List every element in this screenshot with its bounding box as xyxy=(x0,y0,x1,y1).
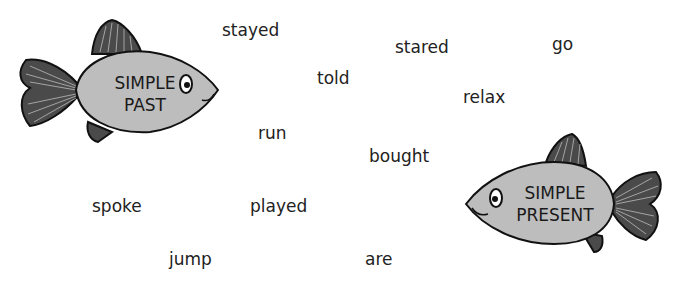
word-card[interactable]: jump xyxy=(169,249,212,269)
word-card[interactable]: are xyxy=(365,249,393,269)
simple-present-label-line2: PRESENT xyxy=(505,204,605,226)
word-card[interactable]: relax xyxy=(463,87,505,107)
simple-past-label-line2: PAST xyxy=(90,94,200,116)
word-card[interactable]: stayed xyxy=(222,20,279,40)
sorting-activity: SIMPLE PAST SIMPLE PRESENT stayed stared xyxy=(0,0,681,288)
word-card[interactable]: stared xyxy=(395,37,449,57)
word-card[interactable]: run xyxy=(258,123,287,143)
word-card[interactable]: spoke xyxy=(92,196,142,216)
simple-present-label-line1: SIMPLE xyxy=(505,182,605,204)
simple-present-label: SIMPLE PRESENT xyxy=(505,182,605,226)
word-card[interactable]: go xyxy=(552,34,573,54)
word-card[interactable]: played xyxy=(250,196,307,216)
word-card[interactable]: bought xyxy=(369,146,429,166)
simple-past-label: SIMPLE PAST xyxy=(90,72,200,116)
simple-past-label-line1: SIMPLE xyxy=(90,72,200,94)
word-card[interactable]: told xyxy=(317,68,350,88)
